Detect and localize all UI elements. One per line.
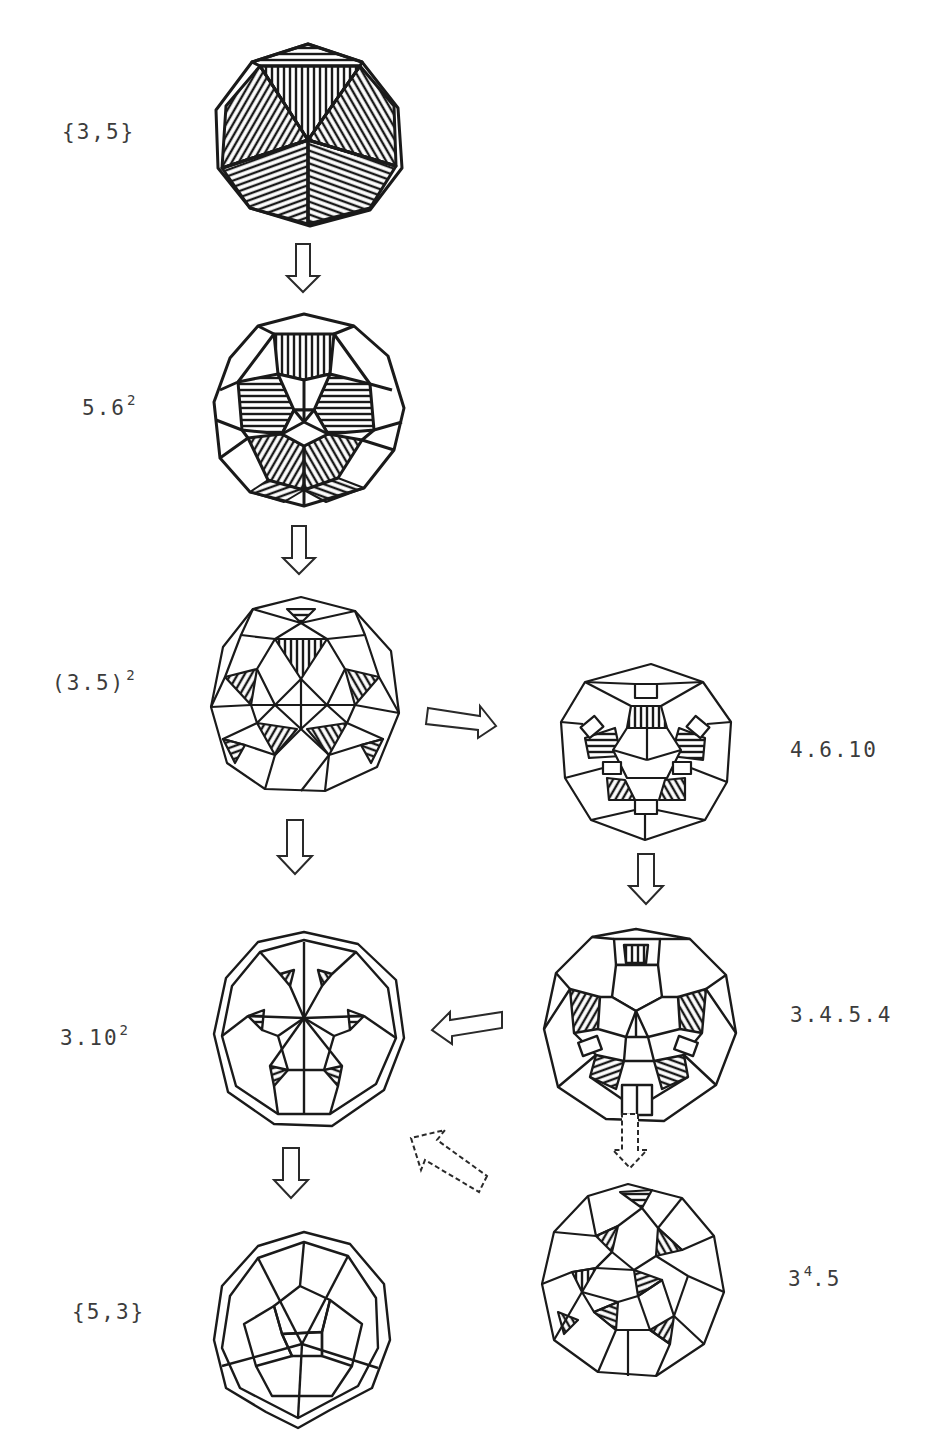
arrow-icosidodeca-to-trunc-dodeca bbox=[275, 818, 315, 878]
label-exponent: 2 bbox=[126, 667, 134, 683]
snub-dodecahedron-figure bbox=[538, 1180, 728, 1380]
label-snub-dodecahedron: 34.5 bbox=[788, 1263, 841, 1291]
arrow-trunc-icosidodeca-to-rhombicosidodeca bbox=[626, 852, 666, 908]
arrow-snub-dodeca-to-trunc-dodeca-dashed bbox=[405, 1118, 495, 1196]
label-exponent: 2 bbox=[127, 392, 135, 408]
label-text: 3 bbox=[788, 1267, 803, 1291]
label-truncated-icosahedron: 5.62 bbox=[82, 392, 135, 420]
arrow-icosa-to-trunc-icosa bbox=[283, 242, 323, 296]
label-text: 3.4.5.4 bbox=[790, 1003, 893, 1027]
label-text: 5.6 bbox=[82, 396, 126, 420]
label-text: {3,5} bbox=[62, 120, 135, 144]
arrow-trunc-dodeca-to-dodeca bbox=[271, 1146, 311, 1202]
label-icosidodecahedron: (3.5)2 bbox=[52, 667, 135, 695]
icosidodecahedron-figure bbox=[205, 595, 405, 795]
dodecahedron-figure bbox=[212, 1228, 402, 1428]
arrow-rhombicosidodeca-to-snub-dodeca-dashed bbox=[610, 1112, 650, 1172]
label-rhombicosidodecahedron: 3.4.5.4 bbox=[790, 1003, 893, 1027]
label-text: 3.10 bbox=[60, 1026, 119, 1050]
label-text: {5,3} bbox=[72, 1300, 145, 1324]
truncated-dodecahedron-figure bbox=[208, 930, 408, 1130]
rhombicosidodecahedron-figure bbox=[540, 925, 740, 1125]
label-text: (3.5) bbox=[52, 671, 125, 695]
label-dodecahedron: {5,3} bbox=[72, 1300, 145, 1324]
label-exponent: 4 bbox=[804, 1263, 812, 1279]
label-text-tail: .5 bbox=[812, 1267, 841, 1291]
truncated-icosahedron-figure bbox=[208, 310, 408, 510]
label-truncated-dodecahedron: 3.102 bbox=[60, 1022, 128, 1050]
truncated-icosidodecahedron-figure bbox=[555, 660, 735, 840]
arrow-rhombicosidodeca-to-trunc-dodeca bbox=[428, 1006, 506, 1050]
icosahedron-figure bbox=[210, 40, 410, 230]
arrow-icosidodeca-to-trunc-icosidodeca bbox=[424, 702, 500, 742]
label-text: 4.6.10 bbox=[790, 738, 878, 762]
label-icosahedron: {3,5} bbox=[62, 120, 135, 144]
arrow-trunc-icosa-to-icosidodeca bbox=[279, 524, 319, 578]
label-exponent: 2 bbox=[120, 1022, 128, 1038]
label-truncated-icosidodecahedron: 4.6.10 bbox=[790, 738, 878, 762]
